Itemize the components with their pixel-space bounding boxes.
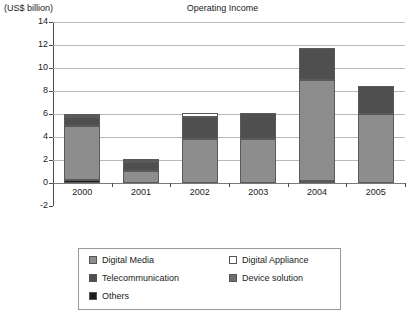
x-axis-tick — [112, 183, 113, 187]
legend-row: TelecommunicationDevice solution — [89, 273, 339, 291]
x-axis-tick-label-2003: 2003 — [235, 188, 281, 197]
legend-label: Digital Appliance — [242, 255, 309, 265]
gridline — [53, 91, 405, 92]
legend-label: Telecommunication — [102, 273, 179, 283]
y-axis-tick — [49, 45, 53, 46]
legend-item[interactable]: Others — [89, 291, 129, 301]
gridline — [53, 22, 405, 23]
y-axis-tick-label: 12 — [23, 40, 48, 49]
y-axis-tick-label: 0 — [23, 178, 48, 187]
x-axis-tick — [170, 183, 171, 187]
bar-segment — [358, 86, 394, 114]
gridline — [53, 137, 405, 138]
x-axis-tick — [229, 183, 230, 187]
bar-segment — [182, 113, 218, 117]
x-axis-tick — [346, 183, 347, 187]
bar-2005[interactable] — [358, 86, 394, 183]
legend-label: Others — [102, 291, 129, 301]
bar-segment — [182, 139, 218, 183]
x-axis-tick-label-2000: 2000 — [59, 188, 105, 197]
y-axis-tick-label: 14 — [23, 17, 48, 26]
legend-swatch-icon — [89, 292, 97, 300]
bar-segment — [299, 80, 335, 181]
legend-label: Digital Media — [102, 255, 154, 265]
x-axis-tick — [288, 183, 289, 187]
legend-swatch-icon — [89, 274, 97, 282]
x-axis-tick-label-2005: 2005 — [353, 188, 399, 197]
bar-segment — [182, 117, 218, 139]
gridline — [53, 68, 405, 69]
y-axis-tick — [49, 68, 53, 69]
operating-income-chart: (US$ billion) Operating Income 141210864… — [0, 0, 417, 331]
legend-item[interactable]: Digital Appliance — [229, 255, 309, 265]
legend-swatch-icon — [89, 256, 97, 264]
bar-segment — [64, 180, 100, 183]
y-axis-tick-label: -2 — [23, 201, 48, 210]
y-axis-tick — [49, 22, 53, 23]
bar-2000[interactable] — [64, 114, 100, 183]
chart-title: Operating Income — [0, 3, 417, 13]
bar-2001[interactable] — [123, 159, 159, 183]
y-axis-tick — [49, 160, 53, 161]
y-axis-tick — [49, 137, 53, 138]
chart-legend: Digital MediaDigital ApplianceTelecommun… — [78, 248, 341, 310]
x-axis-tick-label-2002: 2002 — [177, 188, 223, 197]
bar-segment — [123, 171, 159, 183]
x-axis-tick — [405, 183, 406, 187]
y-axis-tick-label: 4 — [23, 132, 48, 141]
bar-segment — [299, 48, 335, 79]
bar-segment — [64, 126, 100, 181]
legend-item[interactable]: Digital Media — [89, 255, 154, 265]
x-axis-tick-label-2004: 2004 — [294, 188, 340, 197]
bar-segment — [240, 113, 276, 139]
plot-area: 14121086420-2200020012002200320042005 — [53, 22, 405, 206]
x-axis-tick-label-2001: 2001 — [118, 188, 164, 197]
bar-2002[interactable] — [182, 113, 218, 183]
y-axis-tick — [49, 91, 53, 92]
gridline — [53, 45, 405, 46]
bar-2004[interactable] — [299, 48, 335, 183]
y-axis-tick — [49, 114, 53, 115]
bar-segment — [64, 114, 100, 116]
legend-item[interactable]: Telecommunication — [89, 273, 179, 283]
bar-segment — [123, 162, 159, 171]
cropped-caption-text — [0, 322, 417, 331]
legend-swatch-icon — [229, 274, 237, 282]
bar-segment — [64, 117, 100, 126]
legend-row: Others — [89, 291, 339, 309]
y-axis-tick-label: 10 — [23, 63, 48, 72]
legend-swatch-icon — [229, 256, 237, 264]
gridline — [53, 114, 405, 115]
legend-item[interactable]: Device solution — [229, 273, 303, 283]
y-axis-tick-label: 2 — [23, 155, 48, 164]
bar-segment — [123, 159, 159, 161]
gridline — [53, 160, 405, 161]
y-axis-tick-label: 6 — [23, 109, 48, 118]
y-axis-tick — [49, 206, 53, 207]
bar-2003[interactable] — [240, 113, 276, 183]
y-axis-tick-label: 8 — [23, 86, 48, 95]
legend-label: Device solution — [242, 273, 303, 283]
bar-segment — [299, 181, 335, 183]
bar-segment — [240, 139, 276, 183]
bar-segment — [358, 114, 394, 183]
legend-row: Digital MediaDigital Appliance — [89, 255, 339, 273]
